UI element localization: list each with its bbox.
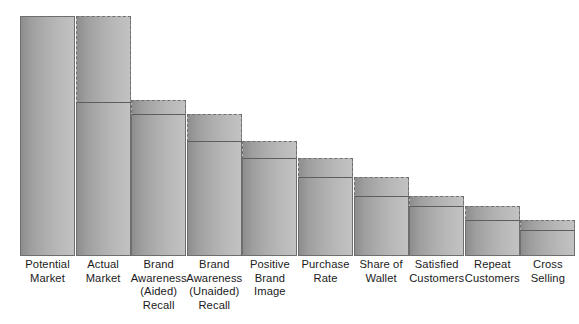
bar-repeat-customers[interactable] <box>465 206 520 256</box>
bar-positive-brand-image[interactable] <box>242 141 297 256</box>
bar-actual-segment <box>187 141 242 256</box>
bar-label-line: Selling <box>511 272 579 286</box>
bar-cross-selling[interactable] <box>520 220 575 256</box>
bar-actual-segment <box>298 177 353 256</box>
bar-actual-market[interactable] <box>76 16 131 256</box>
bar-satisfied-customers[interactable] <box>409 196 464 256</box>
bar-actual-segment <box>465 220 520 256</box>
bar-actual-segment <box>520 230 575 256</box>
bar-brand-awareness-aided-recall[interactable] <box>131 100 186 256</box>
bar-actual-segment <box>242 158 297 256</box>
bar-purchase-rate[interactable] <box>298 158 353 256</box>
bar-actual-segment <box>76 102 131 256</box>
bar-actual-segment <box>131 114 186 256</box>
bar-actual-segment <box>354 196 409 256</box>
bar-label-line: Cross <box>511 258 579 272</box>
bar-label: CrossSelling <box>511 258 579 285</box>
bar-brand-awareness-unaided-recall[interactable] <box>187 114 242 256</box>
bar-actual-segment <box>409 206 464 256</box>
bar-label-line: Recall <box>177 299 251 313</box>
bar-label-line: Image <box>233 285 307 299</box>
plot-area <box>0 0 574 256</box>
bar-potential-market[interactable] <box>20 16 75 256</box>
bar-potential-segment <box>20 16 75 256</box>
bar-share of-wallet[interactable] <box>354 177 409 256</box>
category-labels-row: PotentialMarketActualMarketBrandAwarenes… <box>0 258 574 324</box>
